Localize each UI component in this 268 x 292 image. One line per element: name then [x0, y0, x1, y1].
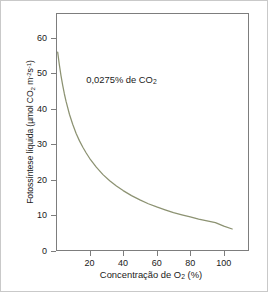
x-tick-label: 60	[144, 258, 170, 268]
x-axis-title-text: Concentração de O	[100, 269, 181, 280]
y-axis-title-sub-co2: 2	[29, 87, 36, 90]
y-tick-mark	[51, 38, 56, 39]
chart-figure: 0102030405060 Fotossíntese líquida (µmol…	[0, 0, 268, 292]
x-tick-label: 40	[110, 258, 136, 268]
y-tick-mark	[51, 144, 56, 145]
x-tick-label: 80	[177, 258, 203, 268]
y-tick-mark	[51, 109, 56, 110]
y-axis-title-text: Fotossíntese líquida (µmol CO	[25, 90, 35, 203]
y-tick-mark	[51, 215, 56, 216]
x-tick-mark	[190, 251, 191, 256]
series-annotation-label: 0,0275% de CO2	[86, 74, 156, 85]
y-axis-title-sup-m: -2	[25, 72, 32, 77]
x-tick-label: 20	[77, 258, 103, 268]
y-tick-mark	[51, 73, 56, 74]
y-axis-title-mid: m	[25, 78, 35, 87]
y-tick-mark	[51, 180, 56, 181]
y-axis-title-sup-s: -1	[25, 63, 32, 68]
x-tick-mark	[123, 251, 124, 256]
annotation-text: 0,0275% de CO	[86, 74, 153, 85]
y-axis-title: Fotossíntese líquida (µmol CO2 m-2s-1)	[21, 13, 37, 251]
y-axis-title-s: s	[25, 68, 35, 72]
x-tick-mark	[224, 251, 225, 256]
x-tick-label: 100	[211, 258, 237, 268]
y-axis-title-close: )	[25, 60, 35, 63]
x-tick-mark	[157, 251, 158, 256]
x-axis-title: Concentração de O2 (%)	[41, 269, 261, 280]
x-axis-title-tail: (%)	[185, 269, 202, 280]
y-tick-mark	[51, 251, 56, 252]
x-tick-mark	[90, 251, 91, 256]
photosynthesis-curve-svg	[56, 13, 249, 251]
annotation-sub-co2: 2	[153, 79, 157, 86]
